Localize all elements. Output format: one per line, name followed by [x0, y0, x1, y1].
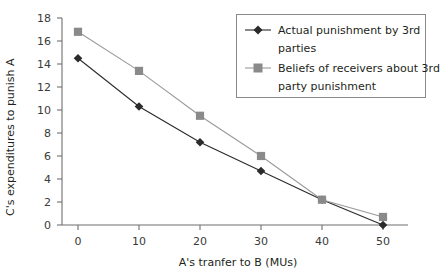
- data-point-square: [135, 67, 143, 75]
- x-tick-label: 30: [254, 235, 268, 248]
- y-tick-label: 4: [44, 173, 51, 186]
- legend-label-beliefs-line1: Beliefs of receivers about 3rd: [278, 62, 440, 75]
- y-tick-label: 12: [37, 81, 51, 94]
- x-tick-label: 0: [75, 235, 82, 248]
- x-axis-title: A's tranfer to B (MUs): [179, 256, 297, 269]
- y-tick-label: 16: [37, 35, 51, 48]
- data-point-square: [379, 213, 387, 221]
- line-chart: C's expenditures to punish A 18 16 14 12…: [0, 0, 440, 277]
- data-point-square: [74, 28, 82, 36]
- legend-label-beliefs-line2: party punishment: [278, 80, 377, 93]
- chart-legend: Actual punishment by 3rd parties Beliefs…: [237, 15, 440, 98]
- y-tick-label: 0: [44, 219, 51, 232]
- x-tick-label: 10: [132, 235, 146, 248]
- y-tick-label: 14: [37, 58, 51, 71]
- y-tick-label: 6: [44, 150, 51, 163]
- y-tick-label: 10: [37, 104, 51, 117]
- legend-label-actual-line1: Actual punishment by 3rd: [278, 24, 420, 37]
- y-tick-label: 2: [44, 196, 51, 209]
- y-tick-label: 18: [37, 12, 51, 25]
- y-tick-label: 8: [44, 127, 51, 140]
- data-point-square: [257, 152, 265, 160]
- square-marker: [254, 64, 263, 73]
- x-tick-label: 50: [376, 235, 390, 248]
- data-point-square: [318, 196, 326, 204]
- chart-figure: C's expenditures to punish A 18 16 14 12…: [0, 0, 440, 277]
- data-point-square: [196, 112, 204, 120]
- legend-label-actual-line2: parties: [278, 42, 316, 55]
- x-tick-label: 40: [315, 235, 329, 248]
- y-axis-title: C's expenditures to punish A: [4, 58, 17, 216]
- x-tick-label: 20: [193, 235, 207, 248]
